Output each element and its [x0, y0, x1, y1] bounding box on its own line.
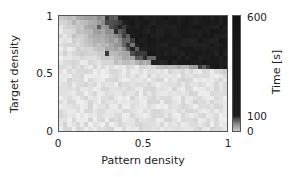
colorbar-tick-0: 0	[247, 126, 254, 137]
colorbar	[232, 15, 241, 132]
x-tick-1: 1	[225, 138, 232, 149]
colorbar-tick-100: 100	[247, 111, 267, 122]
x-tick-0: 0	[55, 138, 62, 149]
heatmap-cells	[59, 16, 227, 131]
y-tick-0.5: 0.5	[36, 68, 53, 79]
y-axis-label: Target density	[8, 35, 21, 113]
x-axis-label: Pattern density	[101, 154, 184, 167]
colorbar-label: Time [s]	[270, 50, 283, 95]
y-tick-0: 0	[46, 126, 53, 137]
y-tick-1: 1	[46, 11, 53, 22]
colorbar-tick-600: 600	[247, 12, 267, 23]
x-tick-0.5: 0.5	[135, 138, 152, 149]
heatmap-plot-area	[58, 15, 228, 132]
